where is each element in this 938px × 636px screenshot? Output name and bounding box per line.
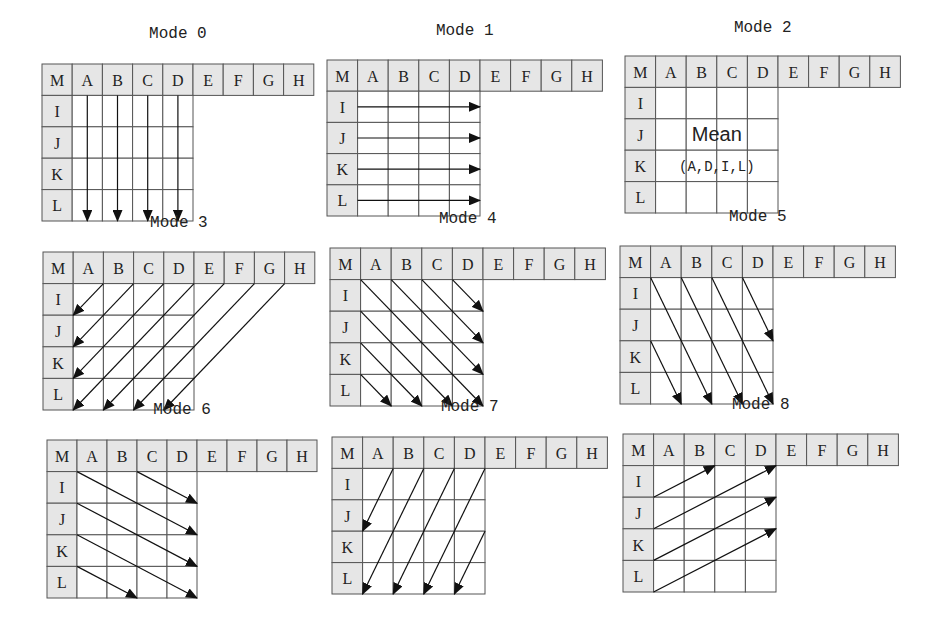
header-label: F bbox=[235, 260, 244, 277]
pixel-cell bbox=[393, 500, 424, 531]
header-label: D bbox=[464, 445, 476, 462]
mode-title: Mode 4 bbox=[439, 210, 497, 228]
header-label: E bbox=[788, 64, 798, 81]
header-label: A bbox=[663, 442, 675, 459]
pixel-cell bbox=[654, 466, 685, 498]
header-label: B bbox=[113, 260, 124, 277]
pixel-cell bbox=[745, 466, 776, 498]
pixel-cell bbox=[654, 497, 685, 529]
header-label: H bbox=[294, 260, 306, 277]
header-label: E bbox=[786, 442, 796, 459]
header-label: H bbox=[586, 445, 598, 462]
pixel-cell bbox=[363, 563, 394, 594]
header-label: E bbox=[204, 260, 214, 277]
pixel-cell bbox=[167, 472, 197, 504]
row-label: J bbox=[339, 130, 345, 147]
pixel-cell bbox=[717, 87, 748, 118]
header-label: F bbox=[819, 64, 828, 81]
header-label: M bbox=[631, 442, 645, 459]
header-label: G bbox=[844, 254, 856, 271]
header-label: C bbox=[725, 442, 736, 459]
header-label: M bbox=[633, 64, 647, 81]
pixel-cell bbox=[654, 529, 685, 561]
header-label: F bbox=[521, 68, 530, 85]
pixel-cell bbox=[424, 563, 455, 594]
header-label: G bbox=[263, 72, 275, 89]
row-label: L bbox=[635, 189, 645, 206]
pixel-cell bbox=[454, 531, 485, 562]
header-label: B bbox=[401, 256, 412, 273]
row-label: I bbox=[633, 285, 638, 302]
pixel-cell bbox=[742, 309, 773, 341]
header-label: A bbox=[82, 72, 94, 89]
header-label: E bbox=[207, 448, 217, 465]
pixel-cell bbox=[363, 468, 394, 499]
header-label: E bbox=[490, 68, 500, 85]
pixel-cell bbox=[681, 341, 712, 373]
row-label: L bbox=[340, 382, 350, 399]
pixel-cell bbox=[363, 531, 394, 562]
pixel-cell bbox=[712, 341, 743, 373]
row-label: L bbox=[52, 197, 62, 214]
pixel-cell bbox=[684, 497, 715, 529]
row-label: L bbox=[342, 570, 352, 587]
header-label: A bbox=[660, 254, 672, 271]
header-label: A bbox=[86, 448, 98, 465]
pixel-cell bbox=[363, 500, 394, 531]
header-label: F bbox=[234, 72, 243, 89]
pixel-cell bbox=[654, 560, 685, 592]
row-label: J bbox=[635, 505, 641, 522]
header-label: D bbox=[459, 68, 471, 85]
pixel-cell bbox=[393, 531, 424, 562]
mode-title: Mode 3 bbox=[150, 214, 208, 232]
row-label: I bbox=[59, 479, 64, 496]
header-label: A bbox=[665, 64, 677, 81]
header-label: F bbox=[238, 448, 247, 465]
pixel-cell bbox=[107, 472, 137, 504]
pixel-cell bbox=[686, 87, 717, 118]
pixel-cell bbox=[424, 500, 455, 531]
row-label: K bbox=[337, 161, 349, 178]
header-label: M bbox=[338, 256, 352, 273]
pixel-cell bbox=[77, 503, 107, 535]
row-label: I bbox=[636, 473, 641, 490]
header-label: H bbox=[293, 72, 305, 89]
row-label: J bbox=[55, 323, 61, 340]
row-label: K bbox=[342, 539, 354, 556]
pixel-cell bbox=[137, 503, 167, 535]
pixel-cell bbox=[167, 535, 197, 567]
pixel-cell bbox=[651, 309, 682, 341]
pixel-cell bbox=[167, 566, 197, 598]
pixel-cell bbox=[742, 278, 773, 310]
header-label: E bbox=[495, 445, 505, 462]
header-label: M bbox=[628, 254, 642, 271]
row-label: I bbox=[638, 95, 643, 112]
pixel-cell bbox=[137, 472, 167, 504]
pixel-cell bbox=[684, 560, 715, 592]
mode-title: Mode 8 bbox=[732, 396, 790, 414]
header-label: G bbox=[551, 68, 563, 85]
mean-sources-label: (A,D,I,L) bbox=[679, 159, 755, 175]
header-label: C bbox=[432, 256, 443, 273]
header-label: G bbox=[849, 64, 861, 81]
header-label: A bbox=[83, 260, 95, 277]
pixel-cell bbox=[681, 278, 712, 310]
row-label: K bbox=[51, 166, 63, 183]
header-label: C bbox=[727, 64, 738, 81]
row-label: K bbox=[635, 158, 647, 175]
header-label: M bbox=[55, 448, 69, 465]
header-label: B bbox=[117, 448, 128, 465]
mode-title: Mode 2 bbox=[734, 19, 792, 37]
header-label: H bbox=[581, 68, 593, 85]
header-label: B bbox=[398, 68, 409, 85]
header-label: F bbox=[817, 442, 826, 459]
diagram-canvas: Mode 0MABCDEFGHIJKLMode 1MABCDEFGHIJKLMo… bbox=[0, 0, 938, 636]
mode-title: Mode 1 bbox=[436, 22, 494, 40]
header-label: D bbox=[173, 260, 185, 277]
pixel-cell bbox=[686, 182, 717, 213]
pixel-cell bbox=[454, 563, 485, 594]
header-label: A bbox=[367, 68, 379, 85]
mode-2-panel: Mode 2MABCDEFGHIJKLMean(A,D,I,L) bbox=[625, 19, 900, 213]
row-label: K bbox=[633, 537, 645, 554]
mode-title: Mode 0 bbox=[149, 25, 207, 43]
